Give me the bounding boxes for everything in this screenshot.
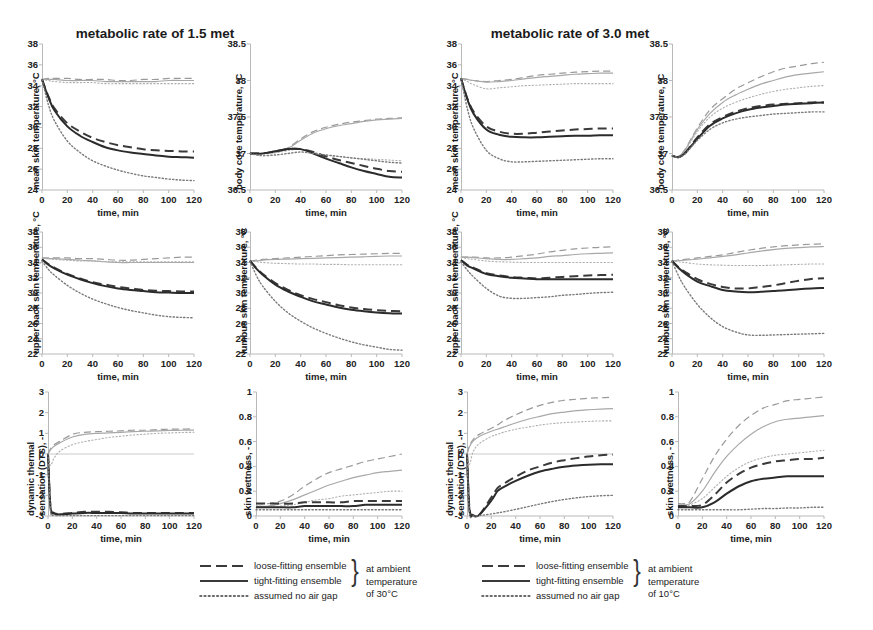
y-tick-label: 37.5: [642, 111, 668, 122]
y-tick-label: 38.5: [220, 38, 246, 49]
y-tick-label: -1: [18, 469, 44, 480]
legend-label: loose-fitting ensemble: [254, 560, 346, 571]
y-tick-label: 38.5: [642, 38, 668, 49]
y-tick-label: 28: [12, 302, 38, 313]
y-axis-label: body core temperature, °C: [233, 74, 244, 190]
y-tick-label: 30: [642, 287, 668, 298]
x-tick-label: 120: [811, 520, 837, 531]
legend-key-dashed: [482, 561, 530, 571]
x-tick-label: 80: [338, 358, 364, 369]
y-tick-label: 34: [12, 257, 38, 268]
x-axis-label: time, min: [461, 371, 613, 382]
y-tick-label: 34: [220, 257, 246, 268]
series-line: [461, 73, 613, 82]
y-tick-label: 30: [431, 287, 457, 298]
y-tick-label: 24: [431, 333, 457, 344]
x-tick-label: 60: [524, 194, 550, 205]
x-tick-label: 100: [364, 194, 390, 205]
y-tick-label: 37.5: [220, 111, 246, 122]
series-line: [250, 152, 402, 163]
plot-area: [461, 232, 613, 354]
legend-key-dashed: [200, 561, 248, 571]
x-tick-label: 100: [575, 358, 601, 369]
x-axis-label: time, min: [42, 207, 194, 218]
legend-label: loose-fitting ensemble: [536, 560, 628, 571]
y-tick-label: 34: [431, 80, 457, 91]
series-line: [42, 79, 194, 81]
x-tick-label: 20: [262, 358, 288, 369]
y-tick-label: 36: [642, 241, 668, 252]
y-tick-label: 34: [431, 257, 457, 268]
series-line: [48, 454, 194, 514]
chart-dts-3p0met: dynamic thermalsensation (DTS), --3-2-10…: [467, 392, 613, 546]
y-tick-label: 38: [12, 38, 38, 49]
y-tick-label: 0.6: [226, 436, 252, 447]
x-tick-label: 120: [811, 194, 837, 205]
x-axis-label: time, min: [250, 207, 402, 218]
y-tick-label: 36: [431, 241, 457, 252]
legend-note-line: of 30°C: [366, 588, 417, 601]
x-tick-label: 60: [105, 358, 131, 369]
plot-area: [250, 44, 402, 190]
legend-key-solid: [482, 576, 530, 586]
x-tick-label: 120: [389, 194, 415, 205]
chart-mean-skin-1p5met: mean skin temperature, °C242628303234363…: [42, 44, 194, 220]
series-line: [467, 409, 613, 454]
series-line: [678, 416, 824, 505]
legend-item: tight-fitting ensemble: [482, 573, 628, 588]
series-line: [250, 261, 402, 265]
x-tick-label: 100: [365, 520, 391, 531]
chart-mean-skin-3p0met: mean skin temperature, °C242628303234363…: [461, 44, 613, 220]
x-tick-label: 0: [29, 194, 55, 205]
y-tick-label: 26: [12, 163, 38, 174]
x-tick-label: 100: [575, 194, 601, 205]
x-axis-label: time, min: [678, 533, 824, 544]
x-tick-label: 0: [665, 520, 691, 531]
legend-brace-right: }: [633, 557, 641, 585]
x-axis-label: time, min: [461, 207, 613, 218]
y-tick-label: 32: [642, 272, 668, 283]
series-line: [42, 79, 194, 180]
x-tick-label: 40: [84, 520, 110, 531]
x-tick-label: 0: [29, 358, 55, 369]
x-tick-label: 120: [181, 358, 207, 369]
series-line: [678, 397, 824, 504]
series-line: [42, 79, 194, 157]
x-tick-label: 60: [527, 520, 553, 531]
x-tick-label: 20: [54, 358, 80, 369]
chart-wettness-1p5met: skin wettness, -00.20.40.60.810204060801…: [256, 392, 402, 546]
y-tick-label: 38: [431, 226, 457, 237]
x-tick-label: 40: [503, 520, 529, 531]
series-line: [467, 454, 613, 518]
y-tick-label: 1: [226, 386, 252, 397]
series-line: [672, 86, 824, 157]
plot-area: [42, 44, 194, 190]
x-tick-label: 100: [787, 520, 813, 531]
x-tick-label: 120: [811, 358, 837, 369]
y-axis-label: skin wettness, -: [664, 447, 675, 516]
legend-note-left: at ambient temperature of 30°C: [366, 563, 417, 601]
y-tick-label: 3: [437, 386, 463, 397]
y-tick-label: 36: [431, 59, 457, 70]
series-line: [42, 259, 194, 293]
y-tick-label: 26: [12, 318, 38, 329]
x-tick-label: 60: [313, 194, 339, 205]
y-tick-label: 30: [12, 287, 38, 298]
y-tick-label: 2: [18, 407, 44, 418]
chart-lumbus-3p0met: lumbus skin temperature, °C2224262830323…: [672, 232, 824, 384]
x-tick-label: 80: [762, 520, 788, 531]
x-tick-label: 60: [735, 194, 761, 205]
x-tick-label: 60: [735, 358, 761, 369]
x-tick-label: 20: [267, 520, 293, 531]
x-axis-label: time, min: [48, 533, 194, 544]
y-tick-label: 30: [431, 121, 457, 132]
y-tick-label: 0.2: [648, 485, 674, 496]
y-tick-label: 38: [12, 226, 38, 237]
x-tick-label: 120: [600, 358, 626, 369]
x-axis-label: time, min: [42, 371, 194, 382]
x-tick-label: 40: [499, 358, 525, 369]
x-tick-label: 0: [35, 520, 61, 531]
chart-upper-back-3p0met: upper back skin temperature, °C222426283…: [461, 232, 613, 384]
x-tick-label: 20: [684, 194, 710, 205]
legend-item: loose-fitting ensemble: [482, 558, 628, 573]
